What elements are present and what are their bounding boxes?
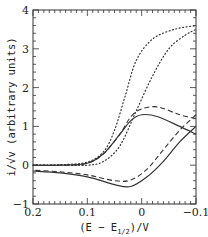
x-tick-label: −0.1 [183,206,208,219]
y-tick-label: 2 [22,82,29,95]
x-tick-label: 0.1 [79,206,97,219]
y-axis-label: i/√v (arbitrary units) [5,37,17,176]
y-tick-label: 4 [22,4,29,17]
y-tick-label: 3 [22,43,29,56]
axis-tick-labels: 0.20.10−0.1−101234 [13,4,208,219]
y-tick-label: 0 [22,159,29,172]
y-tick-label: −1 [13,198,29,211]
y-tick-label: 1 [22,120,29,133]
axis-ticks [33,10,196,204]
plot-frame [33,10,196,204]
dashed-cv-curve [33,115,196,182]
dashed-cv-curve [33,107,196,166]
solid-cv-curve [33,126,196,187]
cyclic-voltammogram-chart: 0.20.10−0.1−101234 i/√v (arbitrary units… [0,0,208,237]
data-curves [33,26,196,187]
x-tick-label: 0 [138,206,145,219]
x-axis-label: (E − E1/2)/V [79,221,149,236]
dotted-2-curve [33,29,196,165]
